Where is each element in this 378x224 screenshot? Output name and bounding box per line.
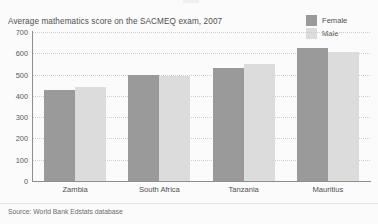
category-label: Zambia — [33, 185, 117, 194]
source-note: Source: World Bank Edstats database — [8, 208, 123, 215]
bar-female-south-africa — [128, 75, 159, 181]
bar-female-zambia — [44, 90, 75, 181]
source-divider — [0, 203, 378, 204]
y-tick-label: 600 — [2, 49, 28, 58]
category-label: South Africa — [117, 185, 201, 194]
bar-female-tanzania — [213, 68, 244, 181]
bar-male-mauritius — [328, 52, 359, 181]
plot-wrapper: 7006005004003002001000 ZambiaSouth Afric… — [0, 0, 378, 224]
chart-figure: Average mathematics score on the SACMEQ … — [0, 0, 378, 224]
bar-female-mauritius — [297, 48, 328, 181]
y-axis-tick-labels: 7006005004003002001000 — [0, 32, 28, 181]
category-label: Mauritius — [286, 185, 370, 194]
y-tick-label: 300 — [2, 113, 28, 122]
category-label: Tanzania — [202, 185, 286, 194]
bars-group — [33, 32, 370, 181]
y-tick-label: 500 — [2, 70, 28, 79]
y-tick-label: 200 — [2, 134, 28, 143]
y-tick-label: 100 — [2, 155, 28, 164]
y-tick-label: 700 — [2, 28, 28, 37]
y-tick-label: 400 — [2, 91, 28, 100]
y-tick-label: 0 — [2, 177, 28, 186]
bar-male-south-africa — [159, 76, 190, 181]
x-axis-line — [32, 181, 371, 182]
bar-male-tanzania — [244, 64, 275, 181]
bar-male-zambia — [75, 87, 106, 181]
